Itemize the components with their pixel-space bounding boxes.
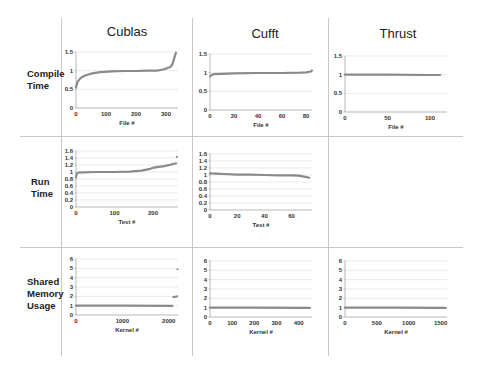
data-series	[210, 70, 312, 76]
y-tick-label: 1.4	[65, 155, 74, 161]
y-tick-label: 1.4	[199, 158, 208, 164]
x-tick-label: 0	[74, 318, 78, 324]
y-tick-label: 1	[204, 70, 208, 76]
y-tick-label: 0	[339, 314, 343, 320]
y-tick-label: 0.2	[199, 200, 208, 206]
column-title-cublas: Cublas	[62, 24, 192, 39]
y-tick-label: 3	[70, 284, 74, 290]
x-axis-label: File #	[388, 124, 404, 130]
chart-compile-cufft: 00.511.5020406080File #	[196, 50, 318, 130]
chart-svg: 00.511.5020406080File #	[196, 50, 318, 130]
x-axis-label: Kernel #	[115, 327, 139, 333]
y-tick-label: 3	[204, 286, 208, 292]
x-tick-label: 300	[272, 320, 283, 326]
column-divider-3	[328, 18, 329, 356]
y-tick-label: 0.6	[199, 186, 208, 192]
y-tick-label: 1	[204, 305, 208, 311]
y-tick-label: 1.6	[199, 151, 208, 157]
x-tick-label: 60	[279, 113, 286, 119]
column-divider-2	[192, 18, 193, 356]
chart-shmem-cufft: 01234560100200300400Kernel #	[196, 257, 318, 337]
x-tick-label: 100	[227, 320, 238, 326]
x-tick-label: 100	[101, 111, 112, 117]
column-title-cufft: Cufft	[200, 26, 330, 41]
y-tick-label: 0	[70, 312, 74, 318]
chart-svg: 00.20.40.60.811.21.41.60100200Test #	[62, 147, 184, 227]
x-tick-label: 2000	[162, 318, 176, 324]
row-label-compile-time: Compile Time	[27, 68, 64, 92]
data-series	[76, 163, 176, 177]
y-tick-label: 0.2	[65, 197, 74, 203]
data-series-segment	[172, 296, 178, 297]
chart-runtime-cufft: 00.20.40.60.811.21.41.60204060Test #	[196, 150, 318, 230]
row-label-shared-memory-usage: Shared Memory Usage	[27, 276, 63, 312]
y-tick-label: 0.4	[65, 190, 74, 196]
x-axis-label: File #	[253, 122, 269, 128]
x-tick-label: 1000	[402, 320, 416, 326]
y-tick-label: 4	[204, 277, 208, 283]
x-axis-label: File #	[119, 120, 135, 126]
x-tick-label: 1500	[434, 320, 448, 326]
chart-svg: 00.511.50100200300File #	[62, 48, 184, 128]
y-tick-label: 1	[204, 172, 208, 178]
chart-compile-thrust: 00.511.5050100File #	[331, 52, 453, 132]
x-tick-label: 80	[303, 113, 310, 119]
x-tick-label: 40	[261, 213, 268, 219]
y-tick-label: 0.5	[199, 88, 208, 94]
y-tick-label: 2	[339, 295, 343, 301]
y-tick-label: 5	[70, 265, 74, 271]
y-tick-label: 0	[204, 207, 208, 213]
y-tick-label: 1	[70, 303, 74, 309]
y-tick-label: 0	[204, 314, 208, 320]
y-tick-label: 0	[204, 107, 208, 113]
y-tick-label: 6	[204, 258, 208, 264]
y-tick-label: 1.2	[65, 162, 74, 168]
x-axis-label: Kernel #	[384, 329, 408, 335]
x-tick-label: 0	[208, 213, 212, 219]
y-tick-label: 0	[339, 109, 343, 115]
x-tick-label: 0	[208, 320, 212, 326]
row-divider-2	[20, 247, 463, 248]
y-tick-label: 0.6	[65, 183, 74, 189]
x-tick-label: 40	[255, 113, 262, 119]
y-tick-label: 1	[70, 169, 74, 175]
x-tick-label: 60	[288, 213, 295, 219]
x-tick-label: 0	[74, 111, 78, 117]
y-tick-label: 6	[70, 256, 74, 262]
chart-svg: 0123456010002000Kernel #	[62, 255, 184, 335]
y-tick-label: 1	[339, 72, 343, 78]
x-axis-label: Test #	[253, 222, 271, 228]
data-series	[76, 53, 176, 88]
chart-shmem-cublas: 0123456010002000Kernel #	[62, 255, 184, 335]
chart-svg: 01234560100200300400Kernel #	[196, 257, 318, 337]
y-tick-label: 4	[339, 277, 343, 283]
y-tick-label: 0	[70, 204, 74, 210]
row-label-run-time: Run Time	[31, 176, 53, 200]
y-tick-label: 0.8	[199, 179, 208, 185]
x-tick-label: 0	[343, 115, 347, 121]
y-tick-label: 1.5	[199, 51, 208, 57]
y-tick-label: 1	[70, 68, 74, 74]
chart-svg: 0123456050010001500Kernel #	[331, 257, 453, 337]
y-tick-label: 0	[70, 105, 74, 111]
y-tick-label: 2	[70, 293, 74, 299]
x-tick-label: 200	[131, 111, 142, 117]
x-tick-label: 100	[109, 210, 120, 216]
chart-svg: 00.20.40.60.811.21.41.60204060Test #	[196, 150, 318, 230]
y-tick-label: 5	[339, 267, 343, 273]
y-tick-label: 0.5	[65, 86, 74, 92]
y-tick-label: 1.6	[65, 148, 74, 154]
x-tick-label: 0	[343, 320, 347, 326]
y-tick-label: 4	[70, 275, 74, 281]
x-tick-label: 300	[161, 111, 172, 117]
x-tick-label: 0	[74, 210, 78, 216]
chart-compile-cublas: 00.511.50100200300File #	[62, 48, 184, 128]
x-tick-label: 1000	[116, 318, 130, 324]
x-tick-label: 400	[294, 320, 305, 326]
x-tick-label: 200	[249, 320, 260, 326]
y-tick-label: 0.5	[334, 90, 343, 96]
y-tick-label: 1.2	[199, 165, 208, 171]
y-tick-label: 0.4	[199, 193, 208, 199]
x-tick-label: 50	[384, 115, 391, 121]
x-tick-label: 100	[425, 115, 436, 121]
